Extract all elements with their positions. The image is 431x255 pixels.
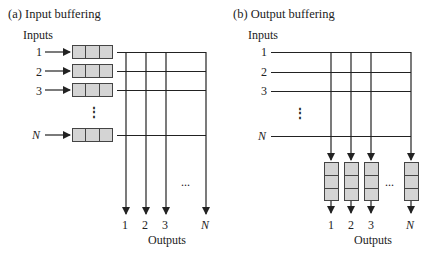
panel-b-crossbar: [271, 52, 411, 160]
input-buffer-1: [73, 46, 113, 59]
panel-a-input-arrows: [45, 52, 70, 135]
input-buffer-n: [73, 129, 113, 142]
panel-b-output-buffers: [325, 163, 419, 201]
panel-a-crossbar: [117, 52, 206, 214]
output-buffer-2: [345, 163, 359, 201]
input-buffer-2: [73, 65, 113, 78]
panel-b-output-arrows: [331, 201, 411, 213]
input-buffer-3: [73, 84, 113, 97]
output-buffer-3: [365, 163, 379, 201]
output-buffer-1: [325, 163, 339, 201]
output-buffer-n: [405, 163, 419, 201]
panel-a-input-buffers: [73, 46, 113, 142]
diagram-graphics: [0, 0, 431, 255]
